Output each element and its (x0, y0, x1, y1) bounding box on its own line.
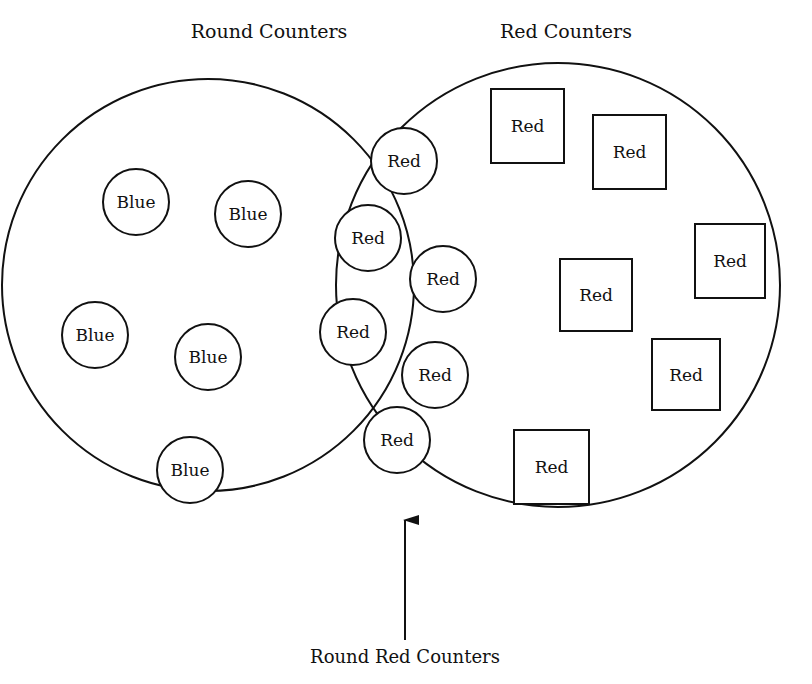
round-counter-red: Red (410, 246, 476, 312)
counter-label: Red (579, 285, 613, 305)
counter-label: Red (336, 322, 370, 342)
round-counter-blue: Blue (215, 181, 281, 247)
counter-label: Red (351, 228, 385, 248)
round-counter-red: Red (335, 205, 401, 271)
counter-label: Blue (229, 204, 268, 224)
counter-label: Blue (171, 460, 210, 480)
red-counters-label: Red Counters (500, 20, 632, 42)
set-circle-round (2, 79, 414, 491)
square-counter-red: Red (491, 89, 564, 163)
round-counter-blue: Blue (175, 324, 241, 390)
round-counters-label: Round Counters (191, 20, 348, 42)
round-counter-red: Red (402, 342, 468, 408)
counter-label: Red (713, 251, 747, 271)
counter-label: Red (426, 269, 460, 289)
venn-diagram: BlueBlueBlueBlueBlueRedRedRedRedRedRedRe… (0, 0, 812, 684)
round-counter-red: Red (364, 407, 430, 473)
counter-label: Blue (189, 347, 228, 367)
counter-label: Red (669, 365, 703, 385)
counter-label: Red (535, 457, 569, 477)
square-counter-red: Red (652, 339, 720, 410)
round-counter-blue: Blue (103, 169, 169, 235)
counter-label: Red (418, 365, 452, 385)
round-counter-red: Red (371, 128, 437, 194)
counter-label: Blue (117, 192, 156, 212)
square-counter-red: Red (514, 430, 589, 504)
counter-label: Red (387, 151, 421, 171)
counter-label: Red (511, 116, 545, 136)
round-counter-red: Red (320, 299, 386, 365)
counter-label: Red (380, 430, 414, 450)
square-counter-red: Red (560, 259, 632, 331)
round-red-counters-label: Round Red Counters (310, 646, 500, 667)
counter-label: Blue (76, 325, 115, 345)
round-counter-blue: Blue (157, 437, 223, 503)
round-counter-blue: Blue (62, 302, 128, 368)
square-counter-red: Red (695, 224, 765, 298)
square-counter-red: Red (593, 115, 666, 189)
counter-label: Red (613, 142, 647, 162)
